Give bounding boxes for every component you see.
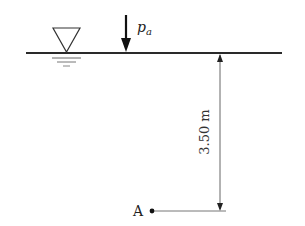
pressure-arrow-icon [121,15,131,52]
water-level-icon [52,28,81,66]
depth-label: 3.50 m [197,109,212,154]
hydrostatic-diagram: pa 3.50 m A [0,0,305,226]
pressure-label: pa [137,19,152,37]
point-a-marker [150,209,155,214]
depth-dimension-line [217,54,223,211]
point-a-label: A [132,203,144,219]
